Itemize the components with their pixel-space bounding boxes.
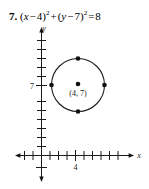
problem-statement: 7. (x−4)2+(y−7)2=8: [9, 6, 149, 22]
circle-point-top: [76, 56, 81, 61]
x-axis-tick-label-4: 4: [74, 163, 78, 172]
x-axis-left-arrowhead-icon: [15, 153, 20, 157]
problem-number: 7.: [9, 10, 17, 22]
circle-point-bottom: [76, 109, 81, 114]
x-axis-arrowhead-icon: [129, 153, 134, 157]
equation-plus: +: [49, 10, 57, 22]
x-axis-label: x: [136, 151, 141, 160]
y-axis-tick-label-7: 7: [30, 82, 34, 91]
equation-minus-1: −: [29, 10, 37, 22]
center-coordinate-label: (4, 7): [69, 89, 87, 98]
circle-point-left: [49, 83, 54, 88]
circle-point-right: [102, 83, 107, 88]
y-axis-label: y: [41, 24, 46, 33]
circle-center-point: [76, 82, 81, 87]
equation-rhs-8: 8: [95, 10, 101, 22]
y-axis-lower-arrowhead-icon: [39, 177, 43, 182]
equation-variable-x: x: [24, 10, 29, 22]
coordinate-graph: (4, 7) 7 4 x y: [0, 24, 149, 189]
equation: (x−4)2+(y−7)2=8: [17, 10, 101, 22]
problem-figure: 7. (x−4)2+(y−7)2=8: [0, 0, 149, 189]
